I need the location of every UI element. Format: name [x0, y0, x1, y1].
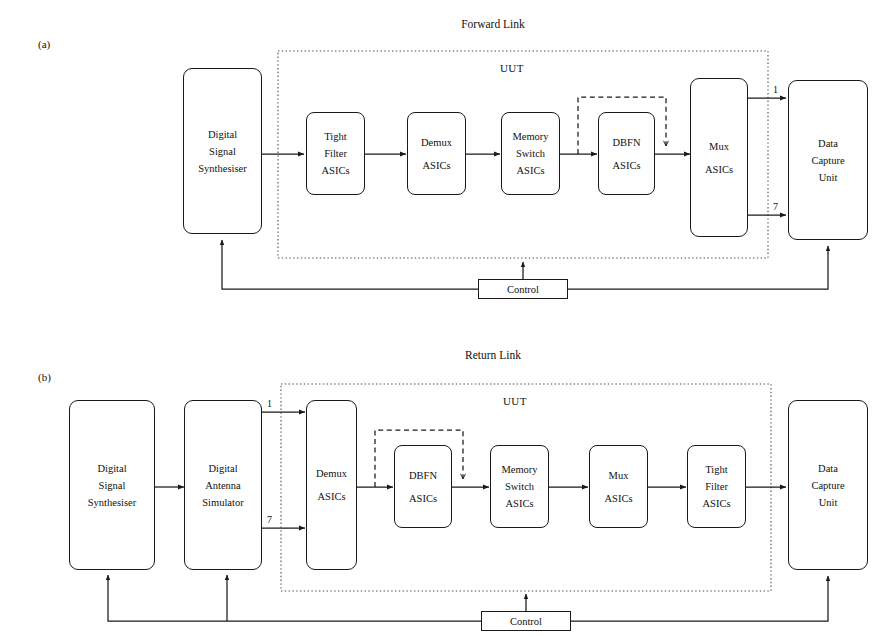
node-line: Demux [421, 134, 452, 151]
node-line: Digital [208, 460, 237, 477]
node-line: Simulator [202, 494, 243, 511]
node-line: Switch [516, 145, 545, 162]
node-line: ASICs [409, 490, 437, 507]
node-line: DBFN [612, 134, 640, 151]
node-line: ASICs [321, 162, 349, 179]
uut-label-a: UUT [500, 62, 524, 74]
port-label-7-b: 7 [267, 514, 272, 525]
node-line: Signal [99, 477, 126, 494]
node-digital-antenna-simulator-b[interactable]: Digital Antenna Simulator [184, 400, 262, 570]
node-tight-filter-asics-b[interactable]: Tight Filter ASICs [687, 445, 746, 528]
node-line: Signal [209, 143, 236, 160]
panel-tag-a: (a) [38, 38, 50, 50]
node-demux-asics-b[interactable]: Demux ASICs [306, 400, 357, 570]
node-line: Filter [705, 478, 728, 495]
node-control-a[interactable]: Control [478, 279, 568, 299]
node-line: Switch [505, 478, 534, 495]
node-dbfn-asics-a[interactable]: DBFN ASICs [598, 112, 655, 195]
edge-control-to-dcu-a [568, 246, 828, 289]
node-tight-filter-asics-a[interactable]: Tight Filter ASICs [306, 112, 365, 195]
node-line: Unit [819, 494, 838, 511]
node-line: Synthesiser [198, 160, 246, 177]
node-line: Filter [324, 145, 347, 162]
node-data-capture-unit-b[interactable]: Data Capture Unit [788, 400, 868, 570]
node-line: Memory [512, 128, 548, 145]
edge-control-to-dss-b [108, 575, 481, 621]
port-label-7-a: 7 [773, 201, 778, 212]
node-line: Capture [811, 152, 844, 169]
node-line: Capture [811, 477, 844, 494]
node-line: ASICs [705, 161, 733, 178]
node-line: Demux [316, 465, 347, 482]
node-dbfn-asics-b[interactable]: DBFN ASICs [394, 445, 452, 528]
node-line: Digital [208, 126, 237, 143]
node-line: ASICs [612, 157, 640, 174]
port-label-1-a: 1 [773, 84, 778, 95]
node-line: Mux [709, 138, 729, 155]
edge-control-to-dss-a [222, 240, 478, 289]
node-line: Antenna [205, 477, 241, 494]
figure-canvas: (a) Forward Link UUT Digital Signal Synt… [0, 0, 891, 637]
node-line: Synthesiser [88, 494, 136, 511]
edge-control-to-dcu-b [571, 576, 828, 621]
node-line: ASICs [317, 488, 345, 505]
node-line: DBFN [409, 467, 437, 484]
panel-title-return-link: Return Link [423, 349, 563, 361]
node-memory-switch-asics-a[interactable]: Memory Switch ASICs [501, 112, 560, 195]
node-line: ASICs [505, 495, 533, 512]
node-line: ASICs [702, 495, 730, 512]
node-line: Digital [97, 460, 126, 477]
node-line: Data [818, 135, 838, 152]
node-line: ASICs [604, 490, 632, 507]
panel-title-forward-link: Forward Link [423, 18, 563, 30]
node-line: Mux [609, 467, 629, 484]
node-control-b[interactable]: Control [481, 611, 571, 631]
node-line: ASICs [516, 162, 544, 179]
node-digital-signal-synthesiser-a[interactable]: Digital Signal Synthesiser [183, 68, 262, 234]
uut-label-b: UUT [503, 395, 527, 407]
node-line: Tight [324, 128, 346, 145]
panel-tag-b: (b) [38, 371, 51, 383]
node-memory-switch-asics-b[interactable]: Memory Switch ASICs [490, 445, 549, 528]
port-label-1-b: 1 [267, 398, 272, 409]
node-line: Unit [819, 169, 838, 186]
node-mux-asics-a[interactable]: Mux ASICs [690, 78, 748, 237]
node-data-capture-unit-a[interactable]: Data Capture Unit [788, 80, 868, 240]
node-line: ASICs [422, 157, 450, 174]
node-demux-asics-a[interactable]: Demux ASICs [407, 112, 466, 195]
node-line: Memory [501, 461, 537, 478]
node-mux-asics-b[interactable]: Mux ASICs [589, 445, 648, 528]
node-line: Data [818, 460, 838, 477]
node-line: Tight [705, 461, 727, 478]
node-digital-signal-synthesiser-b[interactable]: Digital Signal Synthesiser [69, 400, 155, 570]
